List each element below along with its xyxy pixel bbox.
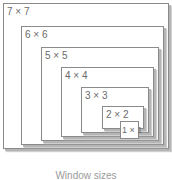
box-label: 7 × 7 [7, 6, 30, 17]
box-label: 6 × 6 [25, 29, 48, 40]
box-1x1: 1 × 1 [120, 121, 139, 139]
box-label: 2 × 2 [106, 109, 129, 120]
box-label: 3 × 3 [85, 90, 108, 101]
box-label: 1 × 1 [122, 125, 142, 135]
diagram-caption: Window sizes [0, 170, 172, 180]
box-label: 4 × 4 [65, 70, 88, 81]
box-label: 5 × 5 [45, 50, 68, 61]
